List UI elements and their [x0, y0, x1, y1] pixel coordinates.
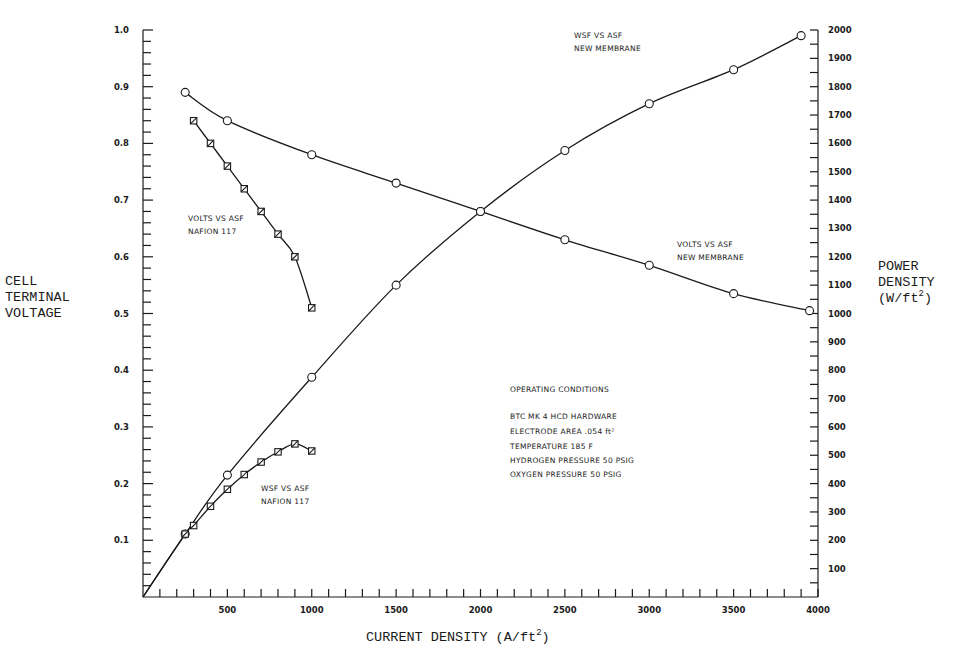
- y-right-title-end: ): [924, 291, 932, 306]
- data-point-circle: [392, 281, 400, 289]
- operating-conditions-title: OPERATING CONDITIONS: [510, 385, 609, 394]
- y-right-tick-label: 900: [828, 337, 846, 347]
- y-right-tick-label: 1000: [828, 309, 852, 319]
- y-left-title-line-3: VOLTAGE: [5, 306, 62, 321]
- series-label: VOLTS VS ASF: [677, 240, 733, 249]
- y-left-tick-label: 0.1: [114, 535, 129, 545]
- data-point-circle: [645, 261, 653, 269]
- y-left-tick-label: 0.7: [114, 195, 129, 205]
- y-left-title-line-1: CELL: [5, 274, 37, 289]
- y-right-tick-label: 200: [828, 535, 846, 545]
- data-point-circle: [477, 207, 485, 215]
- y-right-tick-label: 1700: [828, 110, 852, 120]
- y-right-axis-title: POWER DENSITY (W/ft2): [878, 259, 935, 306]
- y-right-tick-label: 800: [828, 365, 846, 375]
- series-label: NEW MEMBRANE: [574, 44, 641, 53]
- x-tick-label: 3000: [637, 605, 661, 615]
- y-right-tick-label: 1900: [828, 53, 852, 63]
- y-left-tick-label: 1.0: [114, 25, 129, 35]
- operating-condition-line: TEMPERATURE 185 F: [509, 442, 593, 451]
- y-right-tick-label: 1400: [828, 195, 852, 205]
- y-right-tick-label: 2000: [828, 25, 852, 35]
- y-right-tick-label: 500: [828, 450, 846, 460]
- y-left-axis-title: CELL TERMINAL VOLTAGE: [5, 274, 70, 321]
- data-point-circle: [308, 373, 316, 381]
- y-left-tick-label: 0.6: [114, 252, 129, 262]
- y-right-title-line-3: (W/ft2): [878, 289, 932, 306]
- data-point-circle: [223, 117, 231, 125]
- operating-conditions-annotation: OPERATING CONDITIONS BTC MK 4 HCD HARDWA…: [509, 385, 634, 479]
- y-right-tick-label: 1800: [828, 82, 852, 92]
- y-left-tick-label: 0.4: [114, 365, 129, 375]
- series-line-3: [143, 444, 312, 597]
- operating-condition-line: HYDROGEN PRESSURE 50 PSIG: [510, 456, 634, 465]
- x-title: CURRENT DENSITY (A/ft2): [366, 628, 550, 645]
- series-markers: [181, 32, 813, 538]
- y-left-tick-label: 0.3: [114, 422, 129, 432]
- x-axis-title: CURRENT DENSITY (A/ft2): [366, 628, 550, 645]
- x-tick-label: 4000: [806, 605, 830, 615]
- x-tick-label: 1500: [384, 605, 408, 615]
- series-label: WSF VS ASF: [261, 484, 309, 493]
- y-right-tick-label: 600: [828, 422, 846, 432]
- series-label: WSF VS ASF: [574, 31, 622, 40]
- data-point-circle: [561, 236, 569, 244]
- series-label: NAFION 117: [261, 497, 309, 506]
- x-title-main: CURRENT DENSITY (A/ft: [366, 630, 536, 645]
- data-point-circle: [308, 151, 316, 159]
- axes: 0.10.20.30.40.50.60.70.80.91.01002003004…: [114, 25, 852, 615]
- data-point-circle: [797, 32, 805, 40]
- y-right-tick-label: 400: [828, 479, 846, 489]
- data-point-circle: [392, 179, 400, 187]
- y-right-title-unit: (W/ft: [878, 291, 919, 306]
- x-tick-label: 2000: [469, 605, 493, 615]
- series-label: NAFION 117: [188, 227, 236, 236]
- series-line-2: [143, 36, 801, 597]
- x-tick-label: 1000: [300, 605, 324, 615]
- y-right-title-line-2: DENSITY: [878, 275, 935, 290]
- y-left-title-line-2: TERMINAL: [5, 290, 70, 305]
- y-right-tick-label: 1100: [828, 280, 852, 290]
- y-right-title-line-1: POWER: [878, 259, 919, 274]
- y-left-tick-label: 0.9: [114, 82, 129, 92]
- y-right-tick-label: 300: [828, 507, 846, 517]
- chart: 0.10.20.30.40.50.60.70.80.91.01002003004…: [0, 0, 971, 658]
- series-label: VOLTS VS ASF: [188, 214, 244, 223]
- y-right-tick-label: 100: [828, 564, 846, 574]
- data-point-circle: [181, 88, 189, 96]
- data-point-circle: [561, 146, 569, 154]
- operating-condition-line: BTC MK 4 HCD HARDWARE: [510, 412, 617, 421]
- y-right-tick-label: 1600: [828, 138, 852, 148]
- data-point-circle: [806, 307, 814, 315]
- y-left-tick-label: 0.2: [114, 479, 129, 489]
- data-point-circle: [730, 290, 738, 298]
- series-curves: [143, 36, 810, 597]
- x-title-end: ): [542, 630, 550, 645]
- x-tick-label: 2500: [553, 605, 577, 615]
- series-label: NEW MEMBRANE: [677, 253, 744, 262]
- operating-condition-line: ELECTRODE AREA .054 ft²: [510, 427, 615, 436]
- data-point-circle: [730, 66, 738, 74]
- x-tick-label: 500: [219, 605, 237, 615]
- x-tick-label: 3500: [722, 605, 746, 615]
- y-right-tick-label: 1300: [828, 223, 852, 233]
- y-left-tick-label: 0.5: [114, 309, 129, 319]
- data-point-circle: [223, 471, 231, 479]
- y-right-tick-label: 1500: [828, 167, 852, 177]
- y-right-tick-label: 1200: [828, 252, 852, 262]
- series-line-0: [185, 92, 809, 310]
- y-left-tick-label: 0.8: [114, 138, 129, 148]
- operating-condition-line: OXYGEN PRESSURE 50 PSIG: [510, 470, 622, 479]
- data-point-circle: [645, 100, 653, 108]
- y-right-tick-label: 700: [828, 394, 846, 404]
